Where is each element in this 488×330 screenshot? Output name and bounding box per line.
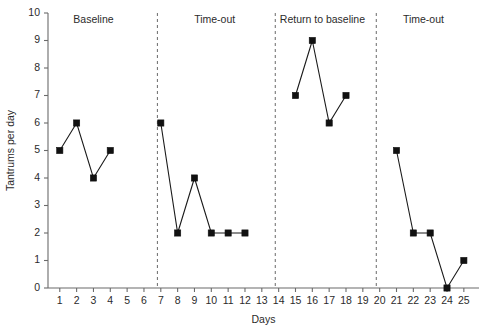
y-tick-label: 2 <box>34 226 40 238</box>
y-tick-label: 6 <box>34 116 40 128</box>
data-point-marker <box>444 285 450 291</box>
x-tick-group <box>60 288 464 292</box>
phase-label-group: BaselineTime-outReturn to baselineTime-o… <box>73 13 444 25</box>
data-point-marker <box>326 120 332 126</box>
x-tick-label: 21 <box>391 294 403 306</box>
y-tick-label: 10 <box>28 6 40 18</box>
series-line <box>295 41 346 124</box>
data-point-marker <box>90 175 96 181</box>
data-point-marker <box>191 175 197 181</box>
data-point-marker <box>410 230 416 236</box>
series-line <box>60 123 111 178</box>
tantrums-per-day-line-chart: 012345678910 123456789101112131415161718… <box>0 0 488 330</box>
x-tick-label: 24 <box>441 294 453 306</box>
x-tick-label: 17 <box>323 294 335 306</box>
y-tick-label: 1 <box>34 253 40 265</box>
series-line <box>397 151 464 289</box>
series-2 <box>292 37 349 126</box>
data-point-marker <box>158 120 164 126</box>
y-axis-title: Tantrums per day <box>4 109 16 191</box>
x-tick-label: 12 <box>239 294 251 306</box>
y-tick-label-group: 012345678910 <box>28 6 40 293</box>
x-tick-label: 20 <box>374 294 386 306</box>
x-tick-label: 1 <box>57 294 63 306</box>
x-tick-label: 5 <box>124 294 130 306</box>
data-point-marker <box>292 92 298 98</box>
data-point-marker <box>74 120 80 126</box>
x-tick-label: 25 <box>458 294 470 306</box>
phase-label: Time-out <box>403 13 444 25</box>
phase-divider-group <box>157 13 376 288</box>
phase-label: Return to baseline <box>280 13 365 25</box>
series-3 <box>393 147 467 291</box>
y-tick-label: 4 <box>34 171 40 183</box>
data-point-marker <box>427 230 433 236</box>
x-tick-label: 11 <box>223 294 234 306</box>
x-tick-label: 3 <box>91 294 97 306</box>
series-line <box>161 123 245 233</box>
x-tick-label-group: 1234567891011121314151617181920212223242… <box>57 294 470 306</box>
data-point-marker <box>461 257 467 263</box>
data-point-marker <box>107 147 113 153</box>
x-tick-label: 22 <box>407 294 419 306</box>
x-tick-label: 16 <box>306 294 318 306</box>
series-0 <box>57 120 114 181</box>
x-tick-label: 13 <box>256 294 268 306</box>
x-tick-label: 18 <box>340 294 352 306</box>
data-point-marker <box>208 230 214 236</box>
chart-container: 012345678910 123456789101112131415161718… <box>0 0 488 330</box>
y-tick-label: 9 <box>34 33 40 45</box>
data-point-marker <box>225 230 231 236</box>
series-1 <box>158 120 248 236</box>
data-point-marker <box>175 230 181 236</box>
x-axis-title: Days <box>252 313 276 325</box>
data-point-marker <box>57 147 63 153</box>
x-tick-label: 23 <box>424 294 436 306</box>
y-tick-label: 8 <box>34 61 40 73</box>
data-series-group <box>57 37 467 291</box>
phase-label: Baseline <box>73 13 113 25</box>
x-tick-label: 19 <box>357 294 369 306</box>
x-tick-label: 4 <box>107 294 113 306</box>
y-tick-label: 0 <box>34 281 40 293</box>
data-point-marker <box>242 230 248 236</box>
data-point-marker <box>343 92 349 98</box>
y-tick-group <box>44 13 48 288</box>
phase-label: Time-out <box>194 13 235 25</box>
data-point-marker <box>309 37 315 43</box>
data-point-marker <box>393 147 399 153</box>
x-tick-label: 15 <box>290 294 302 306</box>
x-tick-label: 2 <box>74 294 80 306</box>
y-tick-label: 7 <box>34 88 40 100</box>
x-tick-label: 14 <box>273 294 285 306</box>
x-tick-label: 7 <box>158 294 164 306</box>
x-tick-label: 6 <box>141 294 147 306</box>
x-tick-label: 10 <box>205 294 217 306</box>
y-tick-label: 3 <box>34 198 40 210</box>
y-tick-label: 5 <box>34 143 40 155</box>
x-tick-label: 8 <box>175 294 181 306</box>
x-tick-label: 9 <box>192 294 198 306</box>
